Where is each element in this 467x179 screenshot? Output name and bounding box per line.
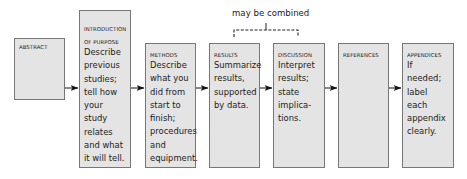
section-body: Describe previous studies; tell how your… <box>84 46 126 166</box>
section-body: Summarize results, supported by data. <box>214 59 255 112</box>
section-heading: APPENDICES <box>407 51 449 59</box>
section-body: Describe what you did from start to fini… <box>150 59 191 165</box>
section-heading: DISCUSSION <box>278 51 320 59</box>
section-abstract: ABSTRACT <box>14 38 65 100</box>
section-heading: RESULTS <box>214 51 255 59</box>
section-appendices: APPENDICES If needed; label each appendi… <box>402 43 454 168</box>
section-heading: ABSTRACT <box>19 43 60 51</box>
section-results: RESULTS Summarize results, supported by … <box>209 43 260 168</box>
section-body: If needed; label each appendix clearly. <box>407 59 449 139</box>
dashed-bracket <box>234 23 298 37</box>
section-heading: INTRODUCTION <box>84 25 126 33</box>
section-heading: METHODS <box>150 51 191 59</box>
section-discussion: DISCUSSION Interpret results; state impl… <box>273 43 325 168</box>
section-heading: OF PURPOSE <box>84 38 126 46</box>
section-heading: REFERENCES <box>343 51 384 59</box>
section-references: REFERENCES <box>338 43 389 168</box>
section-introduction: INTRODUCTION OF PURPOSE Describe previou… <box>79 10 131 168</box>
section-methods: METHODS Describe what you did from start… <box>145 43 196 168</box>
may-be-combined-label: may be combined <box>232 8 309 18</box>
section-body: Interpret results; state implica- tions. <box>278 59 320 125</box>
